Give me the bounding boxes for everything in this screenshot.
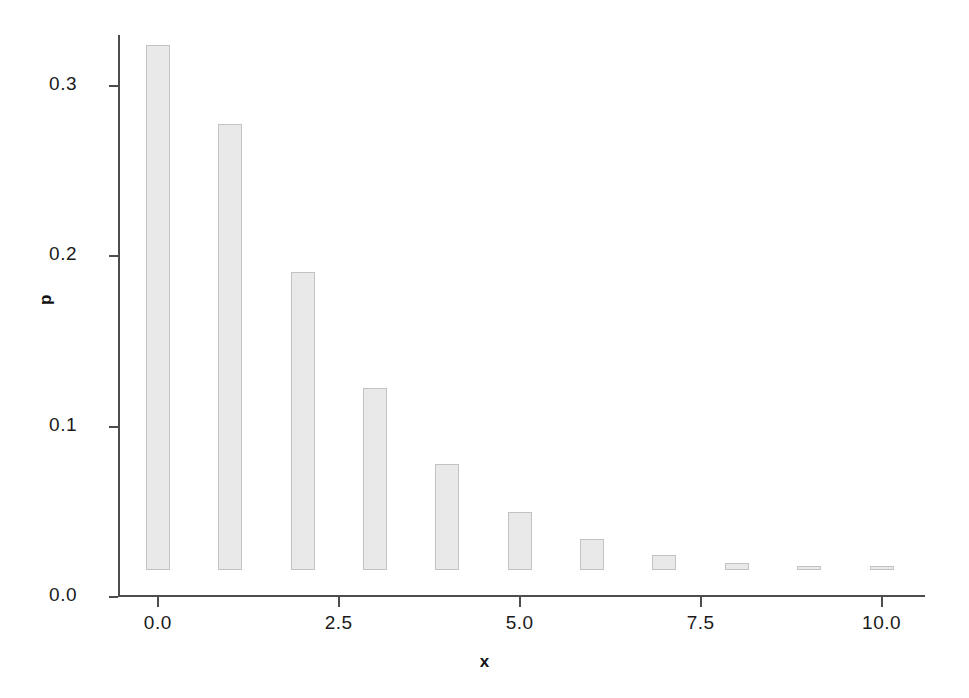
bar [870, 566, 894, 570]
y-tick-label: 0.2 [0, 243, 95, 265]
bar [725, 563, 749, 570]
bar [218, 124, 242, 570]
x-tick-label: 10.0 [862, 612, 901, 634]
x-tick-label: 7.5 [687, 612, 715, 634]
plot-area [118, 35, 925, 597]
x-tick-mark [519, 597, 521, 607]
bar [580, 539, 604, 570]
bar-chart-figure: 0.00.10.20.3 0.02.55.07.510.0 x p [0, 0, 969, 698]
y-tick-mark [109, 255, 118, 257]
bar [797, 566, 821, 570]
x-axis-label: x [0, 652, 969, 672]
bar [435, 464, 459, 570]
bar [363, 388, 387, 570]
x-tick-label: 0.0 [144, 612, 172, 634]
y-tick-mark [109, 426, 118, 428]
x-tick-mark [881, 597, 883, 607]
y-tick-label: 0.3 [0, 73, 95, 95]
y-tick-mark [109, 85, 118, 87]
y-axis-label: p [36, 295, 56, 305]
x-tick-mark [157, 597, 159, 607]
x-tick-label: 2.5 [325, 612, 353, 634]
x-tick-mark [338, 597, 340, 607]
y-tick-mark [109, 596, 118, 598]
y-tick-label: 0.0 [0, 584, 95, 606]
bar [146, 45, 170, 570]
bar [508, 512, 532, 570]
y-tick-label: 0.1 [0, 414, 95, 436]
bar [291, 272, 315, 570]
x-tick-mark [700, 597, 702, 607]
bar [652, 555, 676, 570]
x-tick-label: 5.0 [506, 612, 534, 634]
